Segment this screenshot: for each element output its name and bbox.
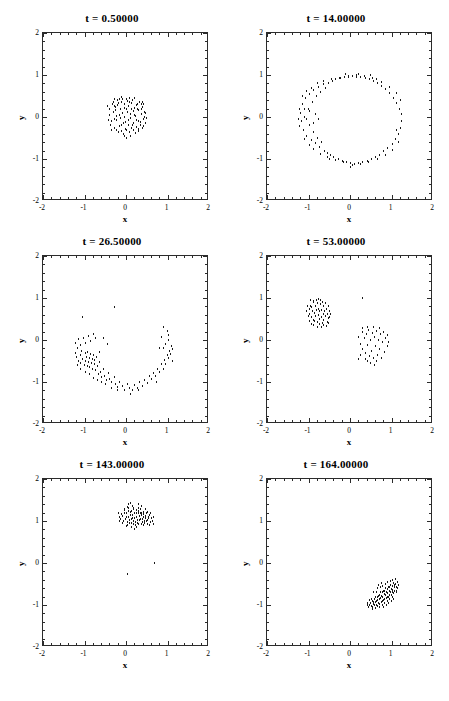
- data-point: [315, 315, 316, 317]
- data-point: [381, 582, 382, 584]
- data-point: [107, 105, 108, 107]
- data-point: [169, 350, 170, 352]
- data-point: [101, 381, 102, 383]
- data-point: [393, 592, 394, 594]
- data-point: [92, 358, 93, 360]
- data-point: [346, 161, 347, 163]
- data-point: [383, 606, 384, 608]
- data-point: [379, 598, 380, 600]
- data-point: [374, 604, 375, 606]
- data-point: [362, 327, 363, 329]
- data-point: [93, 354, 94, 356]
- data-point: [329, 310, 330, 312]
- data-point: [130, 135, 131, 137]
- x-tick-label: 1: [165, 426, 169, 435]
- data-point: [306, 90, 307, 92]
- data-point: [312, 101, 313, 103]
- data-point: [145, 122, 146, 124]
- data-point: [138, 120, 139, 122]
- data-point: [124, 107, 125, 109]
- data-point: [398, 141, 399, 143]
- data-point: [108, 372, 109, 374]
- data-point: [367, 344, 368, 346]
- data-point: [392, 585, 393, 587]
- data-point: [396, 590, 397, 592]
- data-point: [371, 598, 372, 600]
- data-point: [80, 362, 81, 364]
- data-point: [110, 124, 111, 126]
- data-point: [323, 313, 324, 315]
- data-point: [360, 343, 361, 345]
- data-point: [121, 124, 122, 126]
- data-point: [165, 343, 166, 345]
- data-point: [163, 368, 164, 370]
- data-point: [141, 113, 142, 115]
- x-tick-label: -1: [304, 203, 310, 212]
- data-point: [385, 583, 386, 585]
- data-point: [145, 508, 146, 510]
- data-point: [310, 299, 311, 301]
- data-point: [380, 597, 381, 599]
- data-point: [128, 124, 129, 126]
- data-point: [373, 80, 374, 82]
- x-tick-label: 1: [389, 426, 393, 435]
- data-point: [83, 337, 84, 339]
- data-point: [118, 512, 119, 514]
- data-point: [385, 587, 386, 589]
- data-point: [352, 75, 353, 77]
- data-point: [113, 111, 114, 113]
- data-point: [362, 331, 363, 333]
- data-point: [140, 508, 141, 510]
- x-tick-label: 0: [123, 203, 127, 212]
- data-point: [123, 122, 124, 124]
- data-point: [356, 74, 357, 76]
- data-point: [370, 362, 371, 364]
- data-point: [121, 96, 122, 98]
- x-tick-label: -2: [263, 649, 269, 658]
- data-point: [383, 331, 384, 333]
- data-point: [317, 82, 318, 84]
- data-point: [86, 356, 87, 358]
- data-point: [387, 147, 388, 149]
- data-point: [125, 518, 126, 520]
- data-point: [134, 384, 135, 386]
- y-tick-label: 1: [250, 70, 263, 79]
- data-point: [117, 104, 118, 106]
- data-point: [130, 117, 131, 119]
- data-point: [381, 81, 382, 83]
- data-point: [98, 373, 99, 375]
- data-point: [141, 505, 142, 507]
- data-point: [392, 591, 393, 593]
- data-point: [309, 110, 310, 112]
- y-tick-label: 0: [250, 558, 263, 567]
- x-tick-label: 1: [389, 649, 393, 658]
- data-point: [109, 114, 110, 116]
- data-point: [170, 353, 171, 355]
- data-point: [379, 327, 380, 329]
- data-point: [115, 383, 116, 385]
- data-point: [373, 591, 374, 593]
- data-point: [143, 118, 144, 120]
- data-point: [315, 305, 316, 307]
- data-point: [116, 115, 117, 117]
- data-point: [133, 129, 134, 131]
- data-point: [140, 518, 141, 520]
- data-point: [172, 348, 173, 350]
- data-point: [360, 163, 361, 165]
- data-point: [146, 117, 147, 119]
- data-point: [382, 600, 383, 602]
- data-point: [309, 144, 310, 146]
- y-tick-label: 2: [250, 28, 263, 37]
- data-point: [323, 305, 324, 307]
- data-point: [316, 95, 317, 97]
- data-point: [131, 510, 132, 512]
- plot-panel: t = 26.50000-2-1012-2-1012xy: [0, 223, 224, 456]
- data-point: [91, 362, 92, 364]
- data-point: [335, 159, 336, 161]
- data-point: [127, 111, 128, 113]
- y-tick-label: 0: [26, 335, 39, 344]
- y-axis-label: y: [240, 116, 250, 121]
- data-point: [165, 363, 166, 365]
- x-tick-label: -1: [80, 649, 86, 658]
- data-point: [375, 345, 376, 347]
